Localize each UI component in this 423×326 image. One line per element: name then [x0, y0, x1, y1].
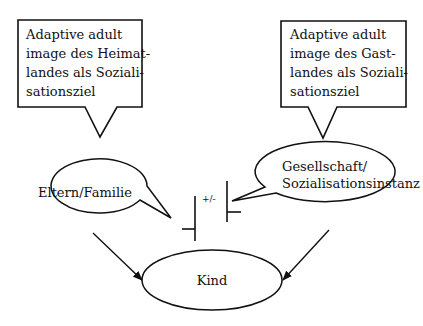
node-child: Kind — [142, 250, 282, 310]
callout-right: Adaptive adult image des Gast- landes al… — [281, 21, 408, 138]
callout-left: Adaptive adult image des Heimat- landes … — [18, 20, 150, 137]
node-family: Eltern/Familie — [38, 159, 171, 218]
callout-left-line-3: landes als Soziali- — [26, 65, 144, 80]
diagram-canvas: Adaptive adult image des Heimat- landes … — [0, 0, 423, 326]
node-society-line-2: Sozialisationsinstanz — [282, 176, 420, 191]
callout-right-line-4: sationsziel — [290, 84, 360, 99]
arrow-family-to-child — [93, 233, 142, 280]
node-family-label: Eltern/Familie — [38, 185, 132, 200]
callout-left-line-4: sationsziel — [26, 84, 96, 99]
arrow-society-to-child — [283, 230, 329, 280]
callout-right-line-1: Adaptive adult — [289, 27, 387, 42]
node-child-label: Kind — [197, 273, 228, 288]
callout-right-line-2: image des Gast- — [290, 46, 396, 61]
node-society: Gesellschaft/ Sozialisationsinstanz — [232, 142, 420, 202]
callout-right-line-3: landes als Soziali- — [290, 65, 408, 80]
relation-label: +/- — [202, 194, 216, 204]
relation-symbol — [182, 181, 241, 241]
callout-left-line-2: image des Heimat- — [26, 46, 150, 61]
node-society-line-1: Gesellschaft/ — [282, 159, 368, 174]
callout-left-line-1: Adaptive adult — [25, 27, 123, 42]
